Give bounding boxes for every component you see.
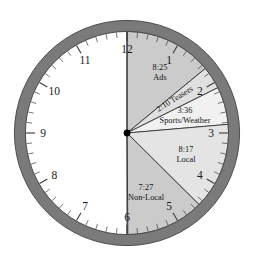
clock-chart-svg: 123456789101112 8:25 Ads 2:10 Teasers 3:…: [0, 0, 255, 259]
clock-numeral-9: 9: [40, 127, 46, 139]
clock-numeral-3: 3: [208, 127, 214, 139]
clock-pie-chart: 123456789101112 8:25 Ads 2:10 Teasers 3:…: [0, 0, 255, 259]
label-sports-name: Sports/Weather: [160, 116, 211, 125]
label-nonlocal-time: 7:27: [139, 183, 154, 192]
label-ads-time: 8:25: [153, 63, 168, 72]
clock-numeral-4: 4: [197, 169, 203, 181]
clock-numeral-12: 12: [121, 43, 133, 55]
clock-numeral-5: 5: [166, 200, 172, 212]
label-sports-time: 3:36: [178, 106, 193, 115]
clock-numeral-6: 6: [124, 211, 130, 223]
clock-center-hub: [124, 130, 131, 137]
clock-numeral-11: 11: [79, 54, 90, 66]
clock-numeral-2: 2: [197, 85, 203, 97]
label-local-name: Local: [177, 155, 197, 164]
label-local-time: 8:17: [179, 145, 194, 154]
label-nonlocal-name: Non-Local: [128, 193, 165, 202]
clock-numeral-10: 10: [49, 85, 61, 97]
clock-numeral-8: 8: [51, 169, 57, 181]
label-ads-name: Ads: [153, 73, 166, 82]
clock-numeral-7: 7: [82, 200, 88, 212]
